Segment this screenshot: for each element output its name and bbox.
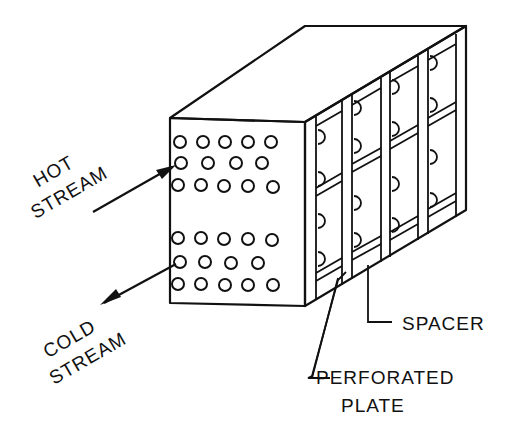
plate-holes xyxy=(318,56,437,266)
cold-stream-arrow xyxy=(100,264,176,305)
side-face xyxy=(305,26,466,306)
spacer-callout: SPACER xyxy=(368,265,485,334)
perforated-plate-label-line2: PLATE xyxy=(341,395,405,416)
cold-stream-label: COLD STREAM xyxy=(33,305,130,388)
spacer-label: SPACER xyxy=(402,313,485,334)
perforated-plate-label-line1: PERFORATED xyxy=(316,367,454,388)
front-face xyxy=(170,118,305,306)
heat-exchanger-diagram: HOT STREAM COLD STREAM SPACER PERFORATED… xyxy=(0,0,518,440)
hot-stream-holes xyxy=(172,136,279,193)
top-face xyxy=(170,26,466,122)
perforated-plate-callout: PERFORATED PLATE xyxy=(308,272,454,416)
spacers xyxy=(316,102,456,281)
cold-stream-holes xyxy=(172,232,279,291)
